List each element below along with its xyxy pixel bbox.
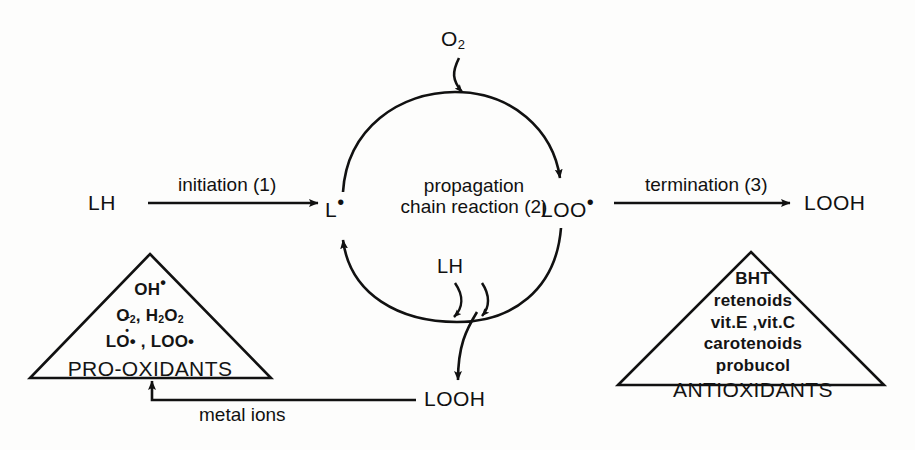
antioxidants-item: probucol xyxy=(658,355,848,377)
lipid-radical-formula: L xyxy=(325,198,337,221)
label-lh-cycle: LH xyxy=(437,256,464,277)
superoxide-charge: –• xyxy=(124,311,129,338)
label-lh-substrate: LH xyxy=(88,192,116,214)
label-hydroperoxide-right: LOOH xyxy=(804,192,866,214)
pro-oxidants-content: OH• O–•2, H2O2 LO• , LOO• PRO-OXIDANTS xyxy=(60,272,240,383)
metal-ions-arrow xyxy=(152,381,416,400)
oxygen-symbol: O xyxy=(441,27,458,50)
antioxidants-item: BHT xyxy=(658,268,848,290)
lipid-radical-dot: • xyxy=(337,191,344,213)
label-hydroperoxide-bottom: LOOH xyxy=(424,388,486,410)
label-peroxyl-radical: LOO• xyxy=(541,192,594,221)
lh-donation-arrow-right xyxy=(482,283,488,316)
peroxide-oxygen: O xyxy=(164,306,177,325)
pro-oxidants-line-3: LO• , LOO• xyxy=(60,331,240,353)
antioxidants-item: carotenoids xyxy=(658,333,848,355)
pro-oxidants-line-2: O–•2, H2O2 xyxy=(60,305,240,327)
label-lipid-radical: L• xyxy=(325,192,344,221)
label-metal-ions: metal ions xyxy=(199,405,286,425)
hydroxyl-radical-formula: OH xyxy=(134,280,160,299)
lipid-peroxidation-diagram: LH initiation (1) L• propagation chain r… xyxy=(0,0,915,450)
oxygen-subscript: 2 xyxy=(458,37,466,52)
lh-donation-arrow-left xyxy=(454,283,461,317)
label-propagation-line1: propagation xyxy=(384,176,564,196)
antioxidants-title: ANTIOXIDANTS xyxy=(658,377,848,404)
peroxide-subscript-o: 2 xyxy=(178,313,184,325)
pro-oxidants-title: PRO-OXIDANTS xyxy=(60,356,240,383)
oxygen-addition-arrow xyxy=(454,58,462,92)
pro-oxidants-line-1: OH• xyxy=(60,272,240,301)
peroxyl-radical-dot: • xyxy=(587,191,594,213)
antioxidants-content: BHT retenoids vit.E ,vit.C carotenoids p… xyxy=(658,268,848,404)
label-oxygen: O2 xyxy=(441,28,466,52)
hydroxyl-radical-dot: • xyxy=(160,273,166,291)
antioxidants-item: retenoids xyxy=(658,290,848,312)
peroxyl-radical-formula: LOO xyxy=(541,198,587,221)
label-initiation-step: initiation (1) xyxy=(178,175,276,195)
antioxidants-item: vit.E ,vit.C xyxy=(658,312,848,334)
peroxide-separator: , H xyxy=(136,306,158,325)
label-termination-step: termination (3) xyxy=(645,175,768,195)
